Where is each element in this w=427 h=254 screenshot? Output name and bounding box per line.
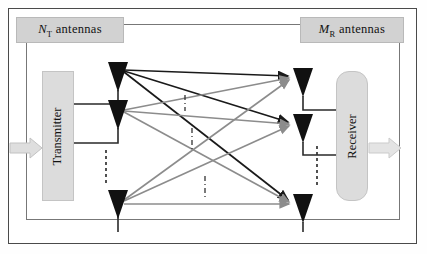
input-signal-arrow bbox=[10, 138, 42, 158]
tx-antenna-2 bbox=[108, 100, 128, 130]
tx-feed-lines bbox=[74, 90, 118, 232]
rx-feed-2 bbox=[303, 142, 336, 155]
rx-feed-1 bbox=[303, 96, 336, 110]
path-tx2-rx1 bbox=[124, 78, 289, 110]
path-tx1-rx2 bbox=[124, 71, 288, 122]
path-tx1-rx3 bbox=[124, 72, 288, 200]
path-tx2-rx2 bbox=[124, 111, 289, 124]
diagram-vector-layer bbox=[0, 0, 427, 254]
ellipsis-group bbox=[106, 95, 317, 200]
tx-feed-2 bbox=[74, 128, 118, 143]
rx-antenna-1 bbox=[293, 68, 313, 97]
tx-antenna-1 bbox=[108, 62, 128, 92]
figure-canvas: NT antennas MR antennas Transmitter Rece… bbox=[0, 0, 427, 254]
channel-paths-primary bbox=[124, 70, 288, 200]
rx-antenna-2 bbox=[293, 114, 313, 143]
path-tx1-rx1 bbox=[124, 70, 288, 76]
path-tx2-rx3 bbox=[124, 112, 289, 202]
rx-antenna-3 bbox=[293, 194, 313, 223]
output-signal-arrow bbox=[369, 138, 401, 158]
